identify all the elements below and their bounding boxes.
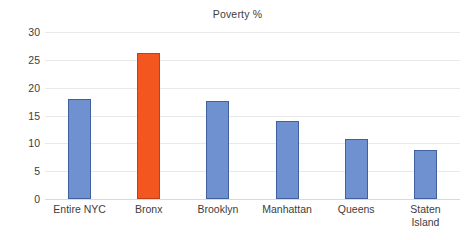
bar[interactable] xyxy=(68,99,91,199)
y-tick-label: 10 xyxy=(0,138,40,149)
bar[interactable] xyxy=(206,101,229,199)
bar[interactable] xyxy=(414,150,437,199)
y-axis: 051015202530 xyxy=(0,32,40,199)
bars-layer xyxy=(45,32,460,199)
y-tick-label: 30 xyxy=(0,27,40,38)
x-tick-label-line: Island xyxy=(391,216,460,229)
chart-title: Poverty % xyxy=(0,8,475,20)
x-tick-label: Manhattan xyxy=(253,203,322,216)
x-tick-label: StatenIsland xyxy=(391,203,460,228)
x-tick-label: Entire NYC xyxy=(45,203,114,216)
y-tick-label: 25 xyxy=(0,55,40,66)
x-tick-label: Brooklyn xyxy=(183,203,252,216)
bar[interactable] xyxy=(276,121,299,199)
y-tick-label: 5 xyxy=(0,166,40,177)
y-tick-label: 15 xyxy=(0,110,40,121)
x-tick-label-line: Bronx xyxy=(135,203,162,215)
x-tick-label-line: Manhattan xyxy=(262,203,312,215)
x-tick-label-line: Queens xyxy=(338,203,375,215)
x-tick-label: Queens xyxy=(322,203,391,216)
bar-chart: Poverty % 051015202530 Entire NYCBronxBr… xyxy=(0,0,475,240)
x-axis: Entire NYCBronxBrooklynManhattanQueensSt… xyxy=(45,203,460,239)
y-tick-label: 0 xyxy=(0,194,40,205)
bar[interactable] xyxy=(137,53,160,199)
x-tick-label-line: Staten xyxy=(410,203,440,215)
y-tick-label: 20 xyxy=(0,82,40,93)
x-tick-label: Bronx xyxy=(114,203,183,216)
gridline-0 xyxy=(45,199,460,200)
bar[interactable] xyxy=(345,139,368,199)
x-tick-label-line: Brooklyn xyxy=(197,203,238,215)
x-tick-label-line: Entire NYC xyxy=(53,203,106,215)
